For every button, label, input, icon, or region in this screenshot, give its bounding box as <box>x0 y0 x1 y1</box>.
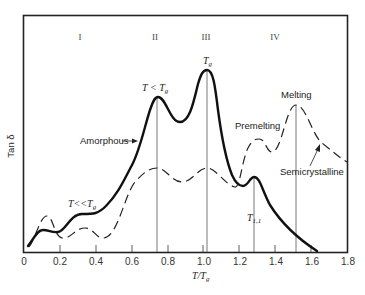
y-axis-label: Tan δ <box>5 134 16 157</box>
svg-text:II: II <box>152 32 158 42</box>
svg-text:0.2: 0.2 <box>53 256 67 267</box>
semicrystalline-label: Semicrystalline <box>280 166 344 177</box>
svg-text:1.4: 1.4 <box>269 256 283 267</box>
semicrystalline-arrow <box>310 144 320 166</box>
svg-text:IV: IV <box>270 32 280 42</box>
tan-delta-chart: 0 0.2 0.4 0.6 0.8 1.0 1.2 1.4 1.6 1.8 T/… <box>0 0 365 295</box>
x-ticks <box>60 245 311 252</box>
svg-text:0.8: 0.8 <box>161 256 175 267</box>
svg-text:0.6: 0.6 <box>125 256 139 267</box>
x-axis-label: T/Tg <box>192 270 210 283</box>
melting-label: Melting <box>281 89 312 100</box>
region-labels: I II III IV <box>79 32 281 42</box>
svg-text:I: I <box>79 32 82 42</box>
amorphous-curve <box>28 70 317 251</box>
x-tick-labels: 0 0.2 0.4 0.6 0.8 1.0 1.2 1.4 1.6 1.8 <box>21 256 355 267</box>
svg-text:0: 0 <box>21 256 27 267</box>
amorphous-label: Amorphous <box>80 135 129 146</box>
t-less-tg-label: T < Tg <box>142 82 169 95</box>
svg-text:1.0: 1.0 <box>197 256 211 267</box>
tg-label: Tg <box>203 55 213 68</box>
svg-text:0.4: 0.4 <box>89 256 103 267</box>
svg-text:1.8: 1.8 <box>341 256 355 267</box>
premelting-label: Premelting <box>235 120 280 131</box>
t-much-less-tg-label: T<<Tg <box>68 198 97 211</box>
svg-text:1.6: 1.6 <box>305 256 319 267</box>
svg-text:III: III <box>202 32 211 42</box>
svg-text:1.2: 1.2 <box>233 256 247 267</box>
